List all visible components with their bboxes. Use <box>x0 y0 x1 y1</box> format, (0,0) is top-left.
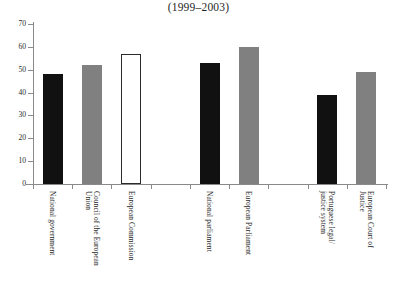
y-tick-label: 70 <box>2 20 26 28</box>
y-tick-label-wrap: 40 <box>0 89 26 97</box>
bar <box>200 63 220 184</box>
x-tick-mark <box>190 185 191 189</box>
y-tick-label-wrap: 70 <box>0 20 26 28</box>
x-tick-mark <box>268 185 269 189</box>
x-tick-mark <box>308 185 309 189</box>
y-tick-label-wrap: 10 <box>0 157 26 165</box>
x-tick-mark <box>72 185 73 189</box>
x-axis-line <box>26 184 388 185</box>
x-axis-category-label: Portuguese legal/ justice system <box>318 191 334 283</box>
x-tick-mark <box>33 185 34 189</box>
y-tick-label: 10 <box>2 157 26 165</box>
y-tick-label-wrap: 20 <box>0 134 26 142</box>
x-tick-mark <box>111 185 112 189</box>
chart-title: (1999–2003) <box>0 1 397 13</box>
bar <box>239 47 259 184</box>
x-axis-category-label: Council of the European Union <box>83 191 99 283</box>
bar <box>121 54 141 184</box>
x-axis-category-label: European Court of Justice <box>358 191 374 283</box>
y-tick-label-wrap: 0 <box>0 180 26 188</box>
x-tick-mark <box>347 185 348 189</box>
x-tick-mark <box>386 185 387 189</box>
bar <box>82 65 102 184</box>
y-tick-label-wrap: 30 <box>0 111 26 119</box>
bar <box>43 74 63 184</box>
y-tick-label: 40 <box>2 89 26 97</box>
bar <box>317 95 337 184</box>
y-tick-label: 30 <box>2 111 26 119</box>
plot-area <box>33 24 386 184</box>
y-tick-label-wrap: 60 <box>0 43 26 51</box>
x-axis-category-label: European Commission <box>126 191 134 283</box>
x-tick-mark <box>229 185 230 189</box>
bar <box>356 72 376 184</box>
y-tick-label-wrap: 50 <box>0 66 26 74</box>
x-axis-category-label: National parliament <box>205 191 213 283</box>
x-axis-category-label: National government <box>48 191 56 283</box>
y-tick-label: 20 <box>2 134 26 142</box>
y-tick-label: 60 <box>2 43 26 51</box>
y-tick-label: 0 <box>2 180 26 188</box>
x-axis-category-label: European Parliament <box>244 191 252 283</box>
x-tick-mark <box>151 185 152 189</box>
bar-chart-figure: (1999–2003) 706050403020100 National gov… <box>0 0 397 285</box>
y-tick-label: 50 <box>2 66 26 74</box>
